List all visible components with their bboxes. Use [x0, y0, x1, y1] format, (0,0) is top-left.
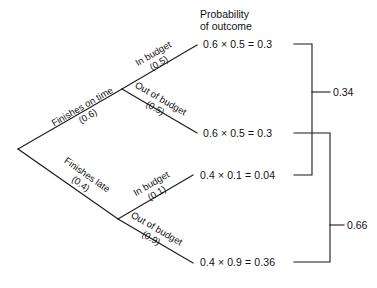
- outcome-4: 0.4 × 0.9 = 0.36: [200, 256, 275, 268]
- probability-tree-diagram: Probability of outcome 0.6 × 0.5 = 0.3 0…: [0, 0, 377, 288]
- title-line-1: Probability: [200, 8, 252, 20]
- total-034: 0.34: [333, 86, 353, 98]
- outcome-1: 0.6 × 0.5 = 0.3: [203, 38, 272, 50]
- outcome-3: 0.4 × 0.1 = 0.04: [200, 169, 275, 181]
- outcome-2: 0.6 × 0.5 = 0.3: [203, 127, 272, 139]
- bracket-034: [294, 44, 312, 175]
- title-line-2: of outcome: [200, 20, 252, 32]
- total-066: 0.66: [347, 219, 367, 231]
- page-title: Probability of outcome: [200, 8, 252, 33]
